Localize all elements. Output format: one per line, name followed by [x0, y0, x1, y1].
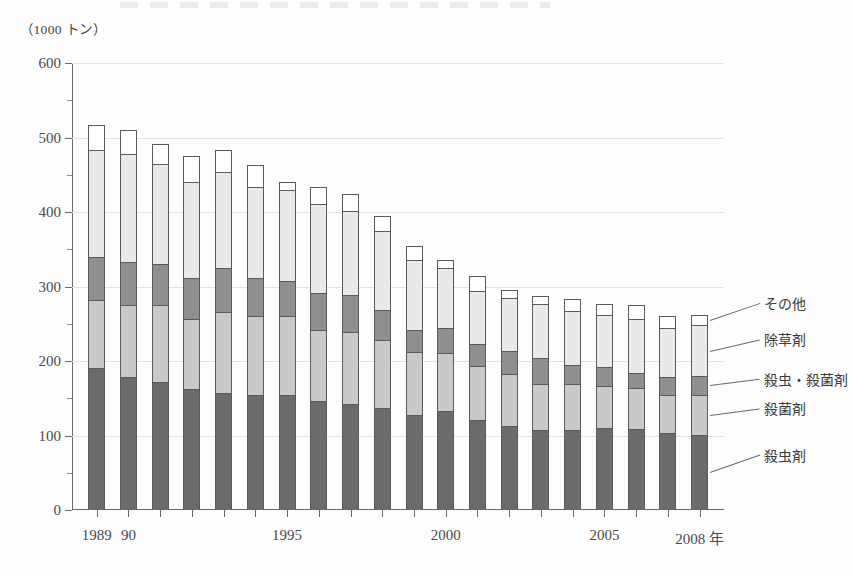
- bar-segment-2005-1: [596, 386, 613, 428]
- bar-segment-1993-3: [215, 172, 232, 268]
- bar-segment-2000-0: [437, 411, 454, 510]
- legend-label-sakkinzai: 殺菌剤: [764, 398, 806, 418]
- y-tick-500: [65, 138, 72, 139]
- x-axis-label-1990: 90: [121, 527, 136, 544]
- bar-segment-2002-3: [501, 298, 518, 352]
- bar-segment-2000-1: [437, 353, 454, 411]
- bar-segment-2004-2: [564, 365, 581, 384]
- bar-segment-1997-1: [342, 332, 359, 404]
- bar-segment-2006-1: [628, 388, 645, 429]
- bar-segment-2005-2: [596, 367, 613, 386]
- x-tick-2008: [700, 510, 701, 517]
- bar-2000[interactable]: [437, 260, 454, 510]
- bar-segment-2008-1: [691, 395, 708, 435]
- bar-segment-2006-0: [628, 429, 645, 510]
- x-tick-1992: [192, 510, 193, 517]
- bar-segment-1996-1: [310, 330, 327, 401]
- bar-segment-2004-0: [564, 430, 581, 510]
- bar-1990[interactable]: [120, 130, 137, 510]
- bar-segment-1990-2: [120, 262, 137, 305]
- bar-2003[interactable]: [532, 296, 549, 510]
- bar-segment-2001-0: [469, 420, 486, 510]
- bar-segment-2006-3: [628, 319, 645, 373]
- gridline-300: [72, 287, 724, 288]
- bar-1991[interactable]: [152, 144, 169, 510]
- bar-segment-2006-2: [628, 373, 645, 388]
- bar-1989[interactable]: [88, 125, 105, 510]
- bar-segment-1990-1: [120, 305, 137, 377]
- bar-segment-2005-0: [596, 428, 613, 510]
- y-tick-300: [65, 287, 72, 288]
- bar-1996[interactable]: [310, 187, 327, 510]
- legend-label-satchu_sakkin: 殺虫・殺菌剤: [764, 369, 848, 389]
- bar-segment-2008-3: [691, 325, 708, 376]
- bar-2006[interactable]: [628, 305, 645, 510]
- bar-segment-1997-3: [342, 211, 359, 295]
- bar-2001[interactable]: [469, 276, 486, 510]
- bar-segment-1996-2: [310, 293, 327, 330]
- bar-segment-1990-4: [120, 130, 137, 154]
- x-axis-label-1989: 1989: [82, 527, 112, 544]
- x-tick-1997: [351, 510, 352, 517]
- y-axis-label-500: 500: [39, 129, 62, 146]
- bar-segment-2008-2: [691, 376, 708, 395]
- bar-segment-1997-2: [342, 295, 359, 332]
- bar-segment-1994-4: [247, 165, 264, 187]
- bar-segment-1992-2: [183, 278, 200, 318]
- bar-segment-1989-4: [88, 125, 105, 150]
- bar-segment-2000-3: [437, 268, 454, 328]
- x-tick-1999: [414, 510, 415, 517]
- top-cut-rule: [120, 2, 550, 8]
- x-tick-1989: [97, 510, 98, 517]
- bar-1999[interactable]: [406, 246, 423, 510]
- bar-segment-2007-3: [659, 328, 676, 378]
- bar-segment-1990-0: [120, 377, 137, 510]
- bar-segment-2000-2: [437, 328, 454, 353]
- bar-segment-1996-3: [310, 204, 327, 293]
- legend-label-josouzai: 除草剤: [764, 329, 806, 349]
- bar-2002[interactable]: [501, 290, 518, 510]
- x-axis-label-2005: 2005: [589, 527, 619, 544]
- bar-segment-1995-1: [279, 316, 296, 395]
- bar-2004[interactable]: [564, 299, 581, 510]
- bar-segment-2003-2: [532, 358, 549, 384]
- bar-segment-1996-4: [310, 187, 327, 203]
- x-tick-1993: [224, 510, 225, 517]
- bar-segment-2008-0: [691, 435, 708, 510]
- y-tick-350: [67, 249, 72, 250]
- bar-2005[interactable]: [596, 304, 613, 510]
- bar-segment-2003-4: [532, 296, 549, 303]
- bar-segment-1991-2: [152, 264, 169, 305]
- x-axis-label-2008: 2008 年: [675, 527, 724, 548]
- y-axis-label-400: 400: [39, 204, 62, 221]
- bar-segment-1996-0: [310, 401, 327, 511]
- x-tick-1994: [255, 510, 256, 517]
- x-tick-2007: [668, 510, 669, 517]
- y-tick-550: [67, 100, 72, 101]
- bar-segment-2003-0: [532, 430, 549, 510]
- bar-1997[interactable]: [342, 194, 359, 510]
- y-tick-450: [67, 175, 72, 176]
- bar-segment-1995-3: [279, 190, 296, 280]
- y-axis-label-200: 200: [39, 353, 62, 370]
- y-axis-unit-label: （1000 トン）: [20, 18, 106, 38]
- bar-1993[interactable]: [215, 150, 232, 510]
- bar-segment-1999-3: [406, 260, 423, 329]
- bar-2007[interactable]: [659, 316, 676, 510]
- bar-1998[interactable]: [374, 216, 391, 510]
- bar-1994[interactable]: [247, 165, 264, 510]
- x-tick-2000: [446, 510, 447, 517]
- plot-area: 0100200300400500600 19899019952000200520…: [72, 63, 724, 510]
- y-tick-400: [65, 212, 72, 213]
- bar-1995[interactable]: [279, 182, 296, 510]
- bar-segment-2007-2: [659, 377, 676, 395]
- gridline-600: [72, 63, 724, 64]
- bar-segment-1997-4: [342, 194, 359, 210]
- bar-segment-1989-1: [88, 300, 105, 369]
- bar-segment-2005-3: [596, 315, 613, 367]
- bar-1992[interactable]: [183, 156, 200, 510]
- legend-label-satchuzai: 殺虫剤: [764, 445, 806, 465]
- bar-2008[interactable]: [691, 315, 708, 510]
- x-axis-label-1995: 1995: [272, 527, 302, 544]
- bar-segment-2006-4: [628, 305, 645, 318]
